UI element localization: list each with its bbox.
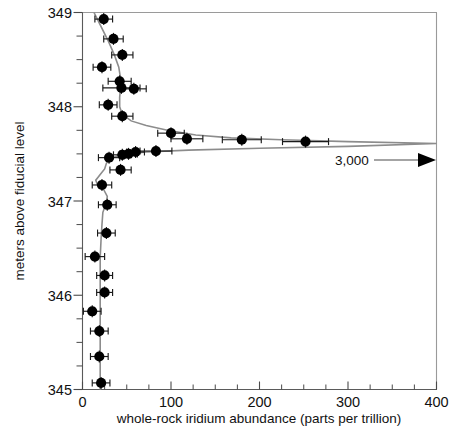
y-tick-label: 348 xyxy=(48,99,72,115)
x-tick-label: 400 xyxy=(424,394,448,410)
x-tick-label: 0 xyxy=(78,394,86,410)
y-tick-label: 347 xyxy=(48,194,72,210)
offscale-label: 3,000 xyxy=(335,153,369,168)
y-tick-label: 349 xyxy=(48,5,72,21)
y-axis-label: meters above fiducial level xyxy=(12,121,27,280)
data-point xyxy=(99,14,109,24)
data-point xyxy=(101,228,111,238)
x-axis-tick-labels: 0100200300400 xyxy=(78,394,448,410)
data-point xyxy=(129,84,139,94)
data-point xyxy=(117,111,127,121)
data-point xyxy=(117,50,127,60)
fit-curve xyxy=(94,13,437,390)
data-point xyxy=(116,83,126,93)
offscale-annotation: 3,000 xyxy=(335,153,436,168)
data-point xyxy=(108,34,118,44)
data-point xyxy=(300,137,310,147)
data-point xyxy=(87,306,97,316)
x-axis-label: whole-rock iridium abundance (parts per … xyxy=(116,411,401,426)
data-point xyxy=(97,62,107,72)
data-point xyxy=(103,100,113,110)
data-point xyxy=(97,180,107,190)
data-point-markers xyxy=(87,14,310,388)
x-tick-label: 100 xyxy=(159,394,183,410)
data-point xyxy=(182,134,192,144)
y-tick-label: 345 xyxy=(48,382,72,398)
error-bars xyxy=(83,13,328,389)
plot-frame xyxy=(82,13,437,391)
x-axis-ticks xyxy=(83,382,437,390)
y-axis-ticks xyxy=(74,13,83,390)
data-point xyxy=(100,270,110,280)
data-point xyxy=(151,146,161,156)
data-point xyxy=(90,252,100,262)
data-point xyxy=(117,150,127,160)
data-point xyxy=(237,135,247,145)
data-point xyxy=(100,287,110,297)
data-point xyxy=(94,326,104,336)
x-tick-label: 300 xyxy=(336,394,360,410)
data-point xyxy=(96,378,106,388)
iridium-abundance-figure: 0100200300400 345346347348349 3,000 whol… xyxy=(0,0,460,443)
y-tick-label: 346 xyxy=(48,288,72,304)
data-point xyxy=(102,200,112,210)
x-tick-label: 200 xyxy=(247,394,271,410)
y-axis-tick-labels: 345346347348349 xyxy=(48,5,72,398)
arrow-head-icon xyxy=(418,153,436,167)
chart-canvas: 0100200300400 345346347348349 3,000 whol… xyxy=(0,0,460,443)
data-point xyxy=(115,165,125,175)
data-point xyxy=(104,153,114,163)
data-point xyxy=(166,128,176,138)
data-point xyxy=(94,351,104,361)
